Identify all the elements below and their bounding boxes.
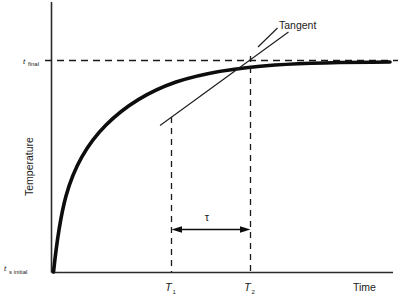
x-axis-title: Time: [353, 281, 376, 293]
x-axis-title-group: Time: [353, 281, 376, 293]
tau-measure-group: τ: [172, 211, 251, 233]
tau-arrowhead-right: [240, 226, 251, 233]
thermal-response-chart: Tangent τ t final t s initial Temperatur…: [0, 0, 400, 306]
tangent-label: Tangent: [279, 19, 316, 31]
x-tick-t2: T 2: [244, 281, 256, 295]
tangent-group: Tangent: [160, 19, 316, 126]
t-final-subscript: final: [28, 61, 39, 67]
axes-group: [52, 2, 394, 273]
x-tick-t1: T 1: [165, 281, 177, 295]
tangent-line: [160, 32, 289, 126]
tangent-leader-line: [258, 28, 278, 47]
y-axis-title: Temperature: [23, 137, 35, 196]
t-final-symbol: t: [23, 57, 26, 66]
t-initial-symbol: t: [4, 264, 7, 273]
temperature-response-curve: [54, 62, 391, 272]
t-initial-subscript: s initial: [9, 269, 27, 275]
tau-arrowhead-left: [172, 226, 183, 233]
t2-subscript: 2: [252, 289, 256, 295]
chart-canvas: Tangent τ t final t s initial Temperatur…: [0, 0, 400, 306]
y-tick-t-final: t final: [23, 57, 39, 68]
tau-label: τ: [205, 211, 210, 223]
t1-subscript: 1: [173, 289, 177, 295]
y-tick-t-initial: t s initial: [4, 264, 27, 275]
curve-group: [54, 62, 391, 272]
y-axis-title-group: Temperature: [23, 137, 35, 196]
